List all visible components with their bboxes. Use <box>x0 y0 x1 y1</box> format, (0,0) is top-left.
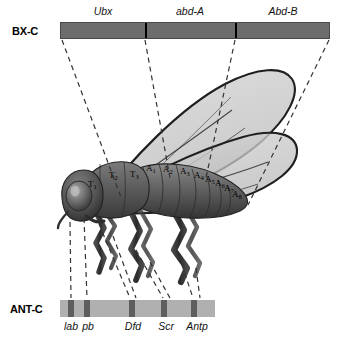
connector-antc-lab <box>70 222 71 298</box>
connector-antc-pb <box>84 218 87 298</box>
segment-label-t1: T1 <box>88 180 97 189</box>
segment-label-a1: A1 <box>146 164 156 173</box>
segment-label-t3: T3 <box>130 170 139 179</box>
segment-label-a5: A5 <box>205 175 215 184</box>
segment-label-a4: A4 <box>194 171 204 180</box>
connector-bxc-4 <box>248 40 329 205</box>
connector-bxc-2 <box>145 40 170 178</box>
connector-bxc-3 <box>206 40 235 178</box>
segment-label-a3: A3 <box>180 167 190 176</box>
connector-antc-dfd-a <box>99 224 130 298</box>
connector-antc-antp-a <box>179 256 193 298</box>
connector-antc-antp-b <box>196 268 200 298</box>
segment-label-t2: T2 <box>109 171 118 180</box>
hox-gene-diagram: BX-C Ubx abd-A Abd-B ANT-C lab pb Dfd Sc… <box>0 0 341 338</box>
segment-label-a2: A2 <box>163 165 173 174</box>
segment-label-a8: A8 <box>232 190 242 199</box>
connector-antc-scr-a <box>136 250 163 298</box>
